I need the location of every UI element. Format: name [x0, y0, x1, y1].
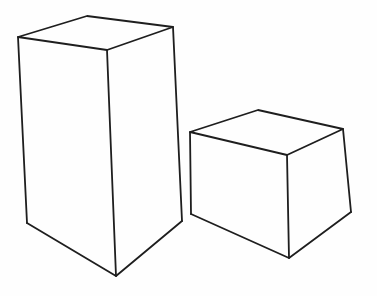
sketch-canvas	[0, 0, 377, 296]
short-box-front-edge	[287, 155, 289, 258]
tall-box-front-edge	[107, 50, 116, 276]
tall-box-right-edge	[173, 27, 182, 221]
tall-box-bottom-edges	[27, 221, 182, 276]
tall-box-left-edge	[18, 37, 27, 223]
short-box	[190, 110, 351, 258]
short-box-right-edge	[343, 129, 351, 212]
short-box-left-edge	[190, 132, 191, 214]
tall-box-top-face	[18, 16, 173, 50]
short-box-bottom-edges	[191, 212, 351, 258]
sketch-svg	[0, 0, 377, 296]
short-box-top-face	[190, 110, 343, 155]
tall-box	[18, 16, 182, 276]
